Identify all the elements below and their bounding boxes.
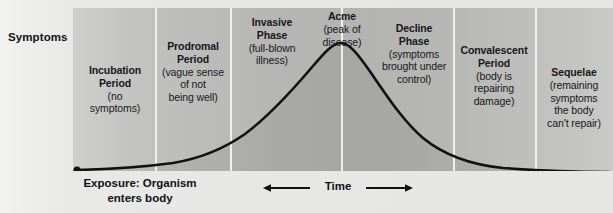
phase-label-sequelae: Sequelae (remaining symptoms the body ca… [535, 66, 613, 130]
phase-name-convalescent-line2: Period [453, 57, 535, 70]
phase-name-prodromal-line1: Prodromal [155, 40, 231, 53]
phase-name-incubation-line1: Incubation [77, 64, 153, 77]
phase-desc-incubation-line1: (no [77, 90, 153, 103]
exposure-annotation-line2: enters body [40, 191, 240, 206]
phase-name-incubation-line2: Period [77, 77, 153, 90]
phase-name-convalescent-line1: Convalescent [453, 44, 535, 57]
phase-name-invasive-line2: Phase [233, 29, 311, 42]
phase-label-acme: Acme (peak of disease) [307, 10, 377, 48]
exposure-marker [73, 166, 80, 171]
phase-desc-sequelae-line2: symptoms [535, 92, 613, 105]
phase-name-decline-line2: Phase [373, 35, 455, 48]
phase-desc-decline-line1: (symptoms [373, 48, 455, 61]
phase-desc-convalescent-line1: (body is [453, 70, 535, 83]
phase-label-decline: Decline Phase (symptoms brought under co… [373, 22, 455, 86]
phase-desc-prodromal-line2: of not [155, 78, 231, 91]
phase-desc-convalescent-line2: repairing [453, 82, 535, 95]
phase-desc-sequelae-line4: can't repair) [535, 117, 613, 130]
phase-desc-prodromal-line1: (vague sense [155, 66, 231, 79]
phase-desc-sequelae-line3: the body [535, 104, 613, 117]
plot-area: Incubation Period (no symptoms) Prodroma… [73, 8, 613, 171]
y-axis-label: Symptoms [8, 31, 68, 43]
phase-name-prodromal-line2: Period [155, 53, 231, 66]
phase-desc-convalescent-line3: damage) [453, 95, 535, 108]
phase-label-convalescent: Convalescent Period (body is repairing d… [453, 44, 535, 108]
phase-desc-acme-line2: disease) [307, 36, 377, 49]
exposure-annotation: Exposure: Organism enters body [40, 176, 240, 206]
phase-desc-invasive-line2: illness) [233, 54, 311, 67]
phase-name-decline-line1: Decline [373, 22, 455, 35]
phase-desc-prodromal-line3: being well) [155, 91, 231, 104]
phase-label-invasive: Invasive Phase (full-blown illness) [233, 16, 311, 67]
phase-desc-acme-line1: (peak of [307, 23, 377, 36]
phase-desc-decline-line3: control) [373, 73, 455, 86]
x-axis-label: Time [262, 180, 414, 192]
phase-desc-invasive-line1: (full-blown [233, 42, 311, 55]
phase-name-sequelae: Sequelae [535, 66, 613, 79]
phase-desc-incubation-line2: symptoms) [77, 102, 153, 115]
phase-label-prodromal: Prodromal Period (vague sense of not bei… [155, 40, 231, 104]
phase-name-acme: Acme [307, 10, 377, 23]
x-axis-group: Time [262, 180, 414, 196]
phase-desc-sequelae-line1: (remaining [535, 79, 613, 92]
phase-desc-decline-line2: brought under [373, 60, 455, 73]
disease-progression-diagram: Symptoms Incubation [0, 0, 613, 213]
exposure-annotation-line1: Exposure: Organism [40, 176, 240, 191]
phase-name-invasive-line1: Invasive [233, 16, 311, 29]
phase-label-incubation: Incubation Period (no symptoms) [77, 64, 153, 115]
